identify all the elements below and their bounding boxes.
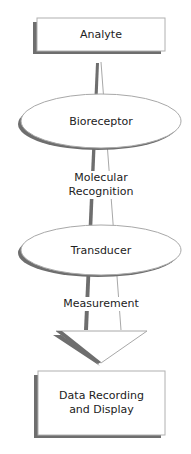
data-recording-line2: and Display	[38, 403, 165, 417]
bioreceptor-label: Bioreceptor	[21, 115, 181, 129]
molecular-recognition-line1: Molecular	[56, 171, 146, 185]
molecular-recognition-line2: Recognition	[56, 185, 146, 199]
data-recording-label: Data Recording and Display	[38, 389, 165, 417]
biosensor-flow-diagram: Analyte Bioreceptor Molecular Recognitio…	[0, 0, 191, 454]
molecular-recognition-label: Molecular Recognition	[56, 171, 146, 199]
analyte-label: Analyte	[37, 28, 165, 42]
data-recording-line1: Data Recording	[38, 389, 165, 403]
diagram-canvas	[0, 0, 191, 454]
measurement-label: Measurement	[56, 297, 146, 311]
transducer-label: Transducer	[21, 244, 181, 258]
